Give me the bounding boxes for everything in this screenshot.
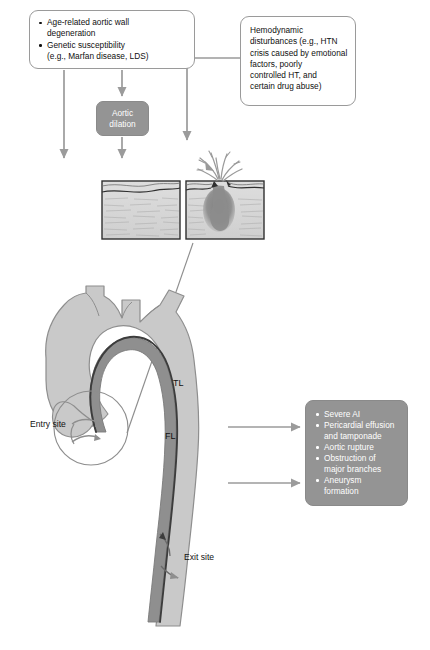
hemodynamic-disturbances-box: Hemodynamic disturbances (e.g., HTN cris… (240, 16, 356, 106)
complication-line: major branches (324, 464, 381, 474)
list-item: Age-related aortic wall degeneration (38, 17, 188, 40)
list-item: Genetic susceptibility (e.g., Marfan dis… (38, 40, 188, 63)
blood-jet-spray (198, 153, 242, 181)
complication-line: and tamponade (324, 431, 382, 441)
diagram-canvas (0, 0, 430, 650)
complication-line: Aneurysm (324, 475, 361, 485)
aortic-dilation-line: Aortic (109, 108, 135, 119)
hemodynamic-line: disturbances (e.g., HTN (250, 36, 338, 46)
entry-site-label: Entry site (30, 419, 66, 429)
complications-box: Severe AI Pericardial effusion and tampo… (305, 400, 408, 506)
aortic-dissection-figure: Age-related aortic wall degeneration Gen… (0, 0, 430, 650)
hemodynamic-line: crisis caused by emotional (250, 48, 347, 58)
hemodynamic-line: certain drug abuse) (250, 81, 322, 91)
complication-line: Aortic rupture (324, 442, 374, 452)
hemodynamic-line: controlled HT, and (250, 70, 317, 80)
list-item: Obstruction of major branches (315, 453, 402, 475)
false-lumen-label: FL (165, 431, 176, 441)
hemodynamic-text: Hemodynamic disturbances (e.g., HTN cris… (250, 25, 349, 93)
list-item: Aneurysm formation (315, 475, 402, 497)
risk-factor-line: degeneration (47, 28, 95, 38)
complication-line: Severe AI (324, 409, 360, 419)
exit-site-label: Exit site (184, 552, 214, 562)
risk-factor-line: (e.g., Marfan disease, LDS) (47, 51, 148, 61)
list-item: Pericardial effusion and tamponade (315, 420, 402, 442)
hemodynamic-line: factors, poorly (250, 59, 302, 69)
intimal-tear-block (186, 151, 264, 239)
risk-factors-box: Age-related aortic wall degeneration Gen… (29, 10, 195, 69)
risk-factor-line: Genetic susceptibility (47, 40, 125, 50)
aorta-anatomy (46, 286, 199, 626)
aortic-dilation-line: dilation (109, 119, 135, 130)
risk-factor-line: Age-related aortic wall (47, 17, 129, 27)
list-item: Severe AI (315, 409, 402, 420)
complication-line: Pericardial effusion (324, 420, 394, 430)
risk-factors-list: Age-related aortic wall degeneration Gen… (38, 17, 188, 62)
true-lumen-label: TL (173, 378, 184, 388)
complication-line: Obstruction of (324, 453, 376, 463)
normal-aortic-wall-block (102, 181, 180, 239)
aortic-dilation-box: Aortic dilation (96, 101, 149, 136)
hemodynamic-line: Hemodynamic (250, 25, 303, 35)
complications-list: Severe AI Pericardial effusion and tampo… (315, 409, 402, 497)
list-item: Aortic rupture (315, 442, 402, 453)
arrow-hemodynamic-to-histology-right (187, 58, 240, 140)
aortic-dilation-text: Aortic dilation (109, 108, 135, 130)
complication-line: formation (324, 486, 359, 496)
